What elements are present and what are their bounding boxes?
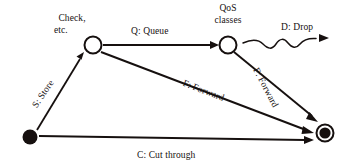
edge-cut-through-line bbox=[39, 136, 305, 140]
edge-queue-label: Q: Queue bbox=[131, 26, 168, 38]
node-start[interactable] bbox=[23, 130, 38, 145]
edge-cut-through bbox=[39, 136, 314, 144]
edge-drop bbox=[243, 34, 329, 48]
node-check[interactable] bbox=[85, 37, 102, 54]
node-qos-label-line2: classes bbox=[214, 15, 241, 25]
edge-cut-through-arrowhead bbox=[304, 136, 314, 144]
edge-drop-label: D: Drop bbox=[281, 22, 313, 34]
edge-store-arrowhead bbox=[77, 52, 85, 60]
diagram-canvas: Check, etc. QoS classes S: Store Q: Queu… bbox=[0, 0, 348, 167]
node-qos-label-line1: QoS bbox=[219, 3, 236, 13]
node-end[interactable] bbox=[317, 125, 334, 142]
edge-cut-through-label: C: Cut through bbox=[137, 150, 195, 162]
node-check-label-line1: Check, bbox=[58, 13, 85, 23]
edge-queue-arrowhead bbox=[210, 41, 219, 49]
node-qos-label: QoS classes bbox=[205, 3, 251, 26]
node-end-core bbox=[319, 127, 330, 138]
edge-forward-2 bbox=[234, 52, 318, 122]
edge-forward-1-arrowhead bbox=[302, 126, 315, 134]
edge-queue bbox=[103, 41, 219, 49]
edge-drop-arrowhead bbox=[319, 34, 329, 42]
edge-drop-wavy-line bbox=[243, 38, 316, 48]
node-check-label-line2: etc. bbox=[50, 25, 94, 37]
node-qos-classes[interactable] bbox=[220, 37, 237, 54]
node-check-label: Check, etc. bbox=[50, 13, 94, 36]
